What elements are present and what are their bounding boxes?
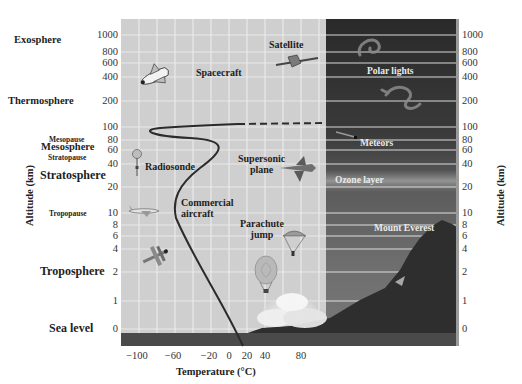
x-axis-title: Temperature (°C) [176, 366, 256, 377]
y-tick-left: 200 [88, 96, 118, 107]
y-axis-title-left: Altitude (km) [24, 161, 35, 231]
annotation-commercial-aircraft: Commercial aircraft [181, 197, 234, 219]
layer-label-stratosphere: Stratosphere [40, 168, 106, 183]
annotation-parachute-line1: Parachute [240, 218, 284, 229]
x-tick: 80 [296, 350, 307, 361]
annotation-polar-lights: Polar lights [367, 66, 414, 76]
layer-label-stratopause: Stratopause [48, 153, 86, 162]
annotation-mount-everest: Mount Everest [374, 223, 434, 233]
y-tick-left: 20 [88, 182, 118, 193]
annotation-parachute-jump: Parachute jump [240, 218, 284, 240]
x-tick: −20 [201, 350, 217, 361]
y-tick-left: 6 [88, 231, 118, 242]
ground-band [121, 333, 458, 346]
annotation-ozone-layer: Ozone layer [335, 175, 384, 185]
y-tick-right: 600 [462, 58, 492, 69]
y-tick-left: 60 [88, 145, 118, 156]
layer-label-sea-level: Sea level [49, 321, 93, 336]
layer-label-mesosphere: Mesosphere [41, 141, 94, 152]
y-tick-right: 800 [462, 47, 492, 58]
annotation-commercial-line1: Commercial [181, 197, 234, 208]
y-tick-left: 1 [88, 296, 118, 307]
x-tick: −60 [165, 350, 181, 361]
y-tick-right: 1 [462, 296, 492, 307]
y-tick-left: 600 [88, 58, 118, 69]
x-tick: 40 [260, 350, 271, 361]
annotation-meteors: Meteors [360, 138, 393, 148]
y-tick-right: 200 [462, 96, 492, 107]
annotation-spacecraft: Spacecraft [196, 67, 242, 78]
y-axis-title-right: Altitude (km) [495, 161, 506, 231]
y-tick-right: 4 [462, 244, 492, 255]
y-tick-right: 6 [462, 231, 492, 242]
x-tick: 0 [226, 350, 231, 361]
annotation-satellite: Satellite [269, 39, 303, 50]
annotation-commercial-line2: aircraft [181, 208, 234, 219]
annotation-supersonic-line2: plane [238, 164, 285, 175]
y-tick-left: 40 [88, 159, 118, 170]
y-tick-left: 8 [88, 220, 118, 231]
annotation-supersonic-plane: Supersonic plane [238, 153, 285, 175]
y-tick-left: 2 [88, 267, 118, 278]
y-tick-right: 2 [462, 267, 492, 278]
y-tick-left: 1000 [88, 30, 118, 41]
layer-label-exosphere: Exosphere [14, 34, 61, 45]
y-tick-left: 800 [88, 47, 118, 58]
y-tick-left: 0 [88, 324, 118, 335]
y-tick-left: 400 [88, 72, 118, 83]
annotation-parachute-line2: jump [240, 229, 284, 240]
y-tick-left: 4 [88, 244, 118, 255]
y-tick-right: 1000 [462, 30, 492, 41]
annotation-radiosonde: Radiosonde [145, 161, 195, 172]
x-tick: 20 [242, 350, 253, 361]
y-tick-right: 100 [462, 122, 492, 133]
y-tick-left: 100 [88, 122, 118, 133]
y-tick-right: 8 [462, 220, 492, 231]
annotation-supersonic-line1: Supersonic [238, 153, 285, 164]
y-tick-right: 10 [462, 208, 492, 219]
layer-label-tropopause: Tropopause [49, 209, 87, 218]
y-tick-left: 10 [88, 208, 118, 219]
y-tick-right: 20 [462, 182, 492, 193]
layer-label-thermosphere: Thermosphere [8, 95, 74, 106]
y-tick-right: 0 [462, 324, 492, 335]
x-tick: −100 [126, 350, 148, 361]
y-tick-right: 400 [462, 72, 492, 83]
y-tick-right: 60 [462, 145, 492, 156]
y-tick-right: 40 [462, 159, 492, 170]
